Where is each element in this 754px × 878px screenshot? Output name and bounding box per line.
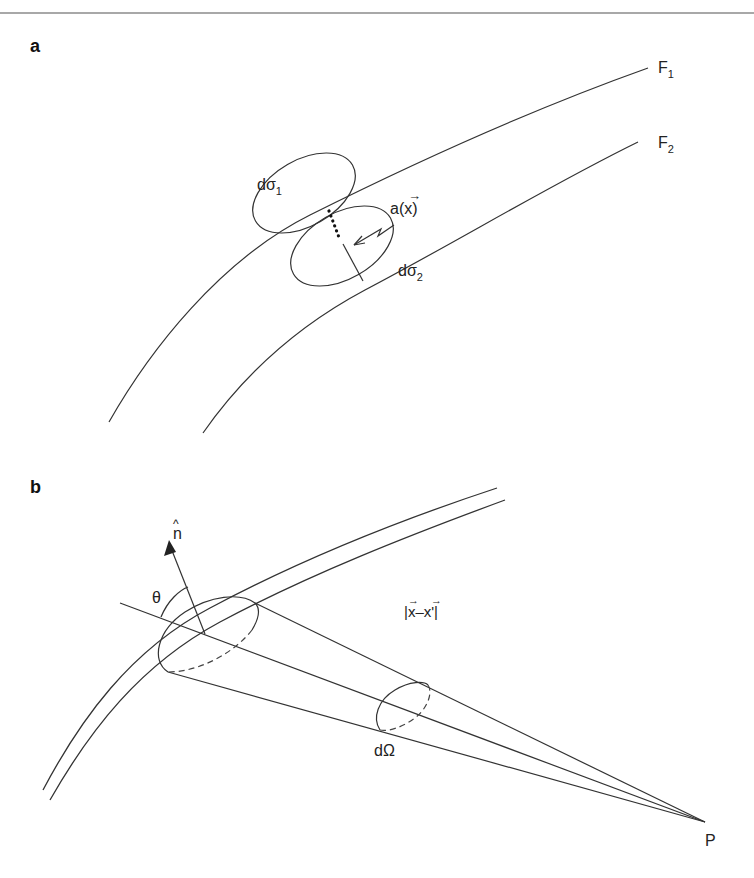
panel-b-label: b xyxy=(30,477,41,497)
cone-lower-edge xyxy=(168,672,705,822)
figure: a F1 F2 dσ1 dσ2 a(x) → b xyxy=(0,0,754,878)
area-element-2 xyxy=(277,189,407,302)
vector-arrow-icon: → xyxy=(408,188,421,203)
distance-arrow-1-icon: → xyxy=(408,594,419,606)
tangent-axis-line xyxy=(120,603,705,822)
distance-arrow-2-icon: → xyxy=(431,594,442,606)
area-element-1 xyxy=(239,136,369,249)
cone-upper-edge xyxy=(255,603,705,822)
label-f2: F2 xyxy=(658,134,674,155)
surface-f1 xyxy=(109,68,648,422)
label-domega: dΩ xyxy=(374,742,395,759)
arrow-head-icon xyxy=(354,236,365,245)
label-dsigma1: dσ1 xyxy=(257,176,282,197)
panel-a: a F1 F2 dσ1 dσ2 a(x) → xyxy=(30,36,674,433)
surface-inner xyxy=(50,500,505,800)
n-hat-icon: ^ xyxy=(173,517,179,531)
panel-b: b n ^ θ |x–x'| → → dΩ P xyxy=(30,477,716,849)
label-f1: F1 xyxy=(658,59,674,80)
normal-arrow-head-icon xyxy=(164,540,176,556)
panel-a-label: a xyxy=(30,36,41,56)
solid-angle-back xyxy=(380,685,430,730)
label-theta: θ xyxy=(152,589,161,606)
solid-angle-front xyxy=(376,682,428,730)
solid-connector xyxy=(343,244,363,281)
label-dsigma2: dσ2 xyxy=(398,262,423,283)
incident-arrow xyxy=(354,225,394,245)
dotted-connector xyxy=(329,211,340,240)
label-point-p: P xyxy=(705,832,716,849)
